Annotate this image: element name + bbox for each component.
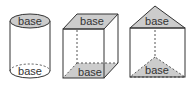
tri-prism-bottom-label: base <box>145 64 169 76</box>
cylinder-top-label: base <box>18 15 42 27</box>
solids-diagram: base base base base base base <box>0 0 192 86</box>
prism-top-label: base <box>80 15 104 27</box>
cylinder-bottom-label: base <box>18 65 42 77</box>
rectangular-prism: base base <box>63 14 118 78</box>
cylinder: base base <box>10 14 50 78</box>
triangular-prism: base base <box>130 6 185 77</box>
tri-prism-top-label: base <box>145 15 169 27</box>
prism-bottom-label: base <box>78 66 102 78</box>
